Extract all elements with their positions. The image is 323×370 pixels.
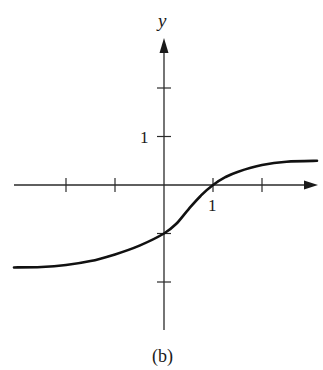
axes — [14, 38, 318, 330]
x-axis-arrow-icon — [304, 181, 318, 190]
y-tick-label-1: 1 — [140, 128, 149, 147]
function-curve — [14, 161, 317, 268]
y-axis-arrow-icon — [160, 38, 169, 53]
x-tick-label-1: 1 — [208, 196, 217, 215]
y-axis-label: y — [156, 10, 167, 31]
figure-caption: (b) — [152, 346, 173, 367]
chart-plot: y 1 1 (b) — [0, 0, 323, 370]
